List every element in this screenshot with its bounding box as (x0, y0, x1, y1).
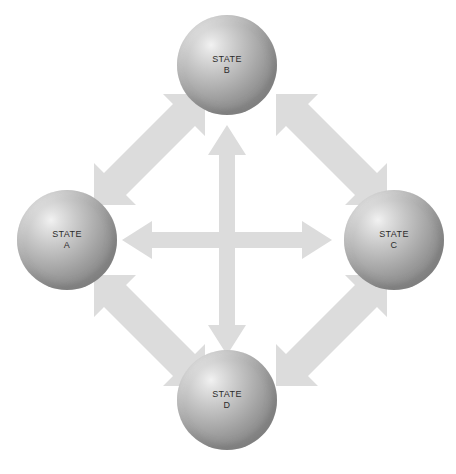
state-node-c[interactable]: STATE C (344, 190, 444, 290)
state-node-b[interactable]: STATE B (177, 15, 277, 115)
state-node-b-label-line1: STATE (212, 54, 242, 65)
state-node-c-label-line1: STATE (379, 229, 409, 240)
state-node-a[interactable]: STATE A (17, 190, 117, 290)
state-transition-diagram: STATE A STATE B STATE C STATE D (0, 0, 456, 474)
state-node-d-label-line2: D (224, 400, 231, 411)
connector-a-b (94, 94, 205, 205)
state-node-d[interactable]: STATE D (177, 350, 277, 450)
state-node-c-label-line2: C (391, 240, 398, 251)
state-node-a-label-line1: STATE (52, 229, 82, 240)
connector-b-c (276, 94, 387, 205)
state-node-b-label-line2: B (224, 65, 230, 76)
state-node-a-label-line2: A (64, 240, 70, 251)
connector-d-c (276, 275, 387, 386)
state-node-d-label-line1: STATE (212, 389, 242, 400)
